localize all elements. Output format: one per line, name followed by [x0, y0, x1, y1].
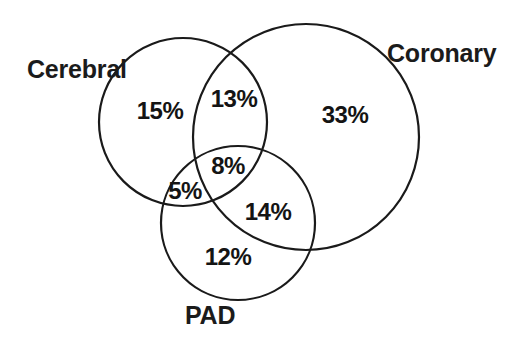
region-value-coronary-pad: 14% [245, 200, 292, 224]
venn-circle-coronary [193, 24, 419, 250]
set-label-pad: PAD [185, 303, 235, 328]
region-value-pad-only: 12% [205, 245, 252, 269]
venn-diagram-figure: Cerebral Coronary PAD 15% 13% 33% 8% 5% … [0, 0, 508, 341]
region-value-cerebral-coronary-pad: 8% [211, 154, 245, 178]
region-value-cerebral-only: 15% [137, 99, 184, 123]
set-label-cerebral: Cerebral [27, 57, 127, 82]
region-value-cerebral-pad: 5% [168, 179, 202, 203]
set-label-coronary: Coronary [387, 41, 497, 66]
region-value-coronary-only: 33% [322, 103, 369, 127]
region-value-cerebral-coronary: 13% [211, 87, 258, 111]
